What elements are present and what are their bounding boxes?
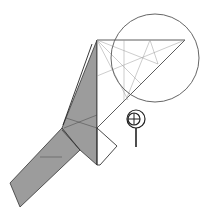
magnifier-icon xyxy=(127,110,145,147)
white-lower-flap xyxy=(97,128,117,165)
origami-diagram xyxy=(0,0,208,220)
gray-leg-flap xyxy=(10,128,80,207)
diagram-canvas xyxy=(0,0,208,220)
